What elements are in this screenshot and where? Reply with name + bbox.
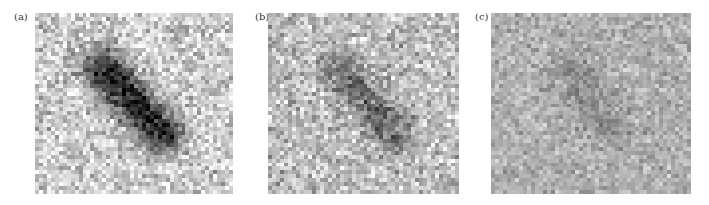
panel-b-image: [268, 13, 459, 194]
panel-c-image: [491, 13, 691, 194]
panel-a-image: [35, 13, 233, 194]
panel-a-label: (a): [14, 11, 28, 22]
panel-c-label: (c): [475, 11, 488, 22]
